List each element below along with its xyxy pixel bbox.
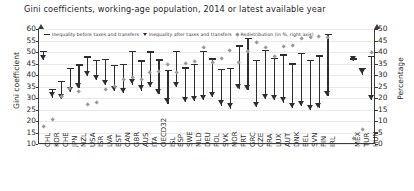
category-label-kor: KOR xyxy=(54,132,61,147)
tick-mark xyxy=(375,41,378,42)
before-tax-marker xyxy=(182,67,189,68)
category-label-grc: GRC xyxy=(250,132,257,147)
redistribution-marker xyxy=(139,77,144,82)
tick-label: 10 xyxy=(378,117,404,124)
category-label-dnk: DNK xyxy=(294,132,301,147)
before-tax-marker xyxy=(289,63,296,64)
tick-label: 40 xyxy=(10,71,36,78)
gridline xyxy=(39,98,374,99)
category-label-irl: IRL xyxy=(330,136,337,147)
tick-label: 45 xyxy=(10,60,36,67)
data-stem xyxy=(292,64,293,108)
category-label-nzl: NZL xyxy=(81,133,88,147)
after-tax-marker xyxy=(93,75,99,80)
gridline xyxy=(39,121,374,122)
category-label-nor: NOR xyxy=(232,131,239,147)
category-label-isl: ISL xyxy=(170,137,177,147)
after-tax-marker xyxy=(191,96,197,101)
category-label-tur: TUR xyxy=(364,133,371,147)
tick-label: 35 xyxy=(378,60,404,67)
tick-label: 55 xyxy=(10,37,36,44)
tick-label: 45 xyxy=(378,37,404,44)
before-tax-marker xyxy=(84,56,91,57)
redistribution-marker xyxy=(201,46,206,51)
after-tax-marker xyxy=(102,80,108,85)
before-tax-marker xyxy=(58,81,65,82)
tick-label: 20 xyxy=(10,117,36,124)
tick-mark xyxy=(36,121,39,122)
tick-mark xyxy=(375,110,378,111)
redistribution-marker xyxy=(326,35,331,40)
chart-title: Gini coefficients, working-age populatio… xyxy=(24,4,326,14)
tick-label: 35 xyxy=(10,83,36,90)
tick-mark xyxy=(36,41,39,42)
tick-mark xyxy=(36,52,39,53)
before-tax-marker xyxy=(102,59,109,60)
after-tax-marker xyxy=(235,84,241,89)
legend-item-before: Inequality before taxes and transfers xyxy=(44,32,139,37)
after-tax-marker xyxy=(244,85,250,90)
redistribution-marker xyxy=(121,77,126,82)
tick-label: 30 xyxy=(10,94,36,101)
after-tax-marker xyxy=(49,92,55,97)
after-tax-marker xyxy=(324,91,330,96)
tick-label: 0 xyxy=(378,140,404,147)
data-stem xyxy=(319,56,320,108)
before-tax-marker xyxy=(280,54,287,55)
category-label-aut: AUT xyxy=(285,133,292,147)
category-label-gbr: GBR xyxy=(134,132,141,147)
before-tax-marker xyxy=(236,45,243,46)
tick-label: 25 xyxy=(10,106,36,113)
gridline xyxy=(39,29,374,30)
category-label-prt: PRT xyxy=(241,134,248,147)
tick-label: 50 xyxy=(378,25,404,32)
before-tax-marker xyxy=(253,60,260,61)
after-tax-marker xyxy=(359,69,365,74)
category-label-lux: LUX xyxy=(276,134,283,147)
redistribution-marker xyxy=(157,69,162,74)
after-tax-marker xyxy=(182,97,188,102)
after-tax-marker xyxy=(307,105,313,110)
before-tax-marker xyxy=(307,60,314,61)
category-label-bel: BEL xyxy=(303,134,310,147)
category-label-esp: ESP xyxy=(178,134,185,147)
before-tax-marker xyxy=(200,51,207,52)
tick-mark xyxy=(36,29,39,30)
plot-area xyxy=(38,29,375,144)
before-tax-marker xyxy=(218,69,225,70)
after-tax-marker xyxy=(147,82,153,87)
redistribution-marker xyxy=(94,100,99,105)
before-tax-marker xyxy=(245,38,252,39)
after-tax-marker xyxy=(173,82,179,87)
data-stem xyxy=(301,54,302,106)
data-stem xyxy=(256,61,257,108)
category-label-jpn: JPN xyxy=(72,135,79,147)
after-tax-marker xyxy=(280,97,286,102)
data-stem xyxy=(283,55,284,103)
tick-label: 60 xyxy=(10,25,36,32)
chart-container: Gini coefficients, working-age populatio… xyxy=(0,0,414,191)
redistribution-marker xyxy=(77,89,82,94)
category-label-svn: SVN xyxy=(312,133,319,147)
dash-marker-icon xyxy=(44,34,50,35)
before-tax-marker xyxy=(138,60,145,61)
before-tax-marker xyxy=(191,64,198,65)
chart-legend: Inequality before taxes and transfers In… xyxy=(44,32,314,37)
gridline xyxy=(39,110,374,111)
after-tax-marker xyxy=(164,98,170,103)
category-label-mex: MEX xyxy=(355,132,362,147)
before-tax-marker xyxy=(111,65,118,66)
tick-label: 40 xyxy=(378,48,404,55)
redistribution-marker xyxy=(183,62,188,67)
redistribution-marker xyxy=(369,50,374,55)
category-label-swe: SWE xyxy=(187,131,194,147)
after-tax-marker xyxy=(200,95,206,100)
after-tax-marker xyxy=(298,101,304,106)
legend-item-after: Inequality after taxes and transfers xyxy=(143,32,232,37)
category-label-nld: NLD xyxy=(196,132,203,147)
tick-mark xyxy=(375,29,378,30)
category-label-usa: USA xyxy=(90,133,97,148)
after-tax-marker xyxy=(155,89,161,94)
after-tax-marker xyxy=(289,103,295,108)
redistribution-marker xyxy=(246,49,251,54)
